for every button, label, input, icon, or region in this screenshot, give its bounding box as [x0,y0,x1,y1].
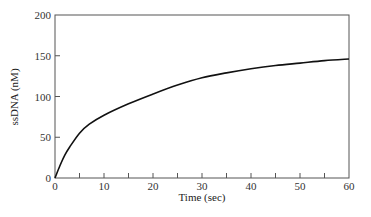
y-axis-label: ssDNA (nM) [8,68,21,125]
y-tick-label: 50 [40,131,52,143]
y-tick-label: 100 [35,91,52,103]
x-tick-label: 40 [246,180,258,192]
x-tick-label: 20 [148,180,160,192]
x-tick-label: 50 [295,180,307,192]
y-tick-label: 150 [35,50,52,62]
plot-area-frame [55,15,349,178]
ssdna-curve [55,59,349,178]
x-tick-label: 60 [344,180,356,192]
line-chart: 0102030405060 050100150200 Time (sec) ss… [0,0,371,217]
y-axis-ticks [55,56,60,138]
y-tick-label: 0 [46,172,52,184]
y-axis-tick-labels: 050100150200 [35,9,52,184]
x-tick-label: 10 [99,180,111,192]
x-axis-ticks [80,173,325,178]
x-axis-label: Time (sec) [179,191,226,204]
y-tick-label: 200 [35,9,52,21]
x-tick-label: 0 [52,180,58,192]
